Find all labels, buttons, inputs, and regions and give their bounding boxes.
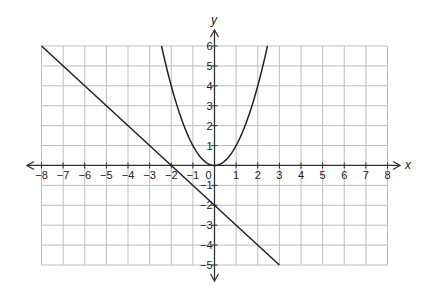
line-y-equals-neg-x-minus-2 <box>42 46 280 265</box>
x-tick-label: −4 <box>122 169 135 181</box>
y-tick-label: 3 <box>206 100 212 112</box>
y-tick-label: 1 <box>206 140 212 152</box>
y-tick-label: −1 <box>200 179 213 191</box>
x-tick-label: −7 <box>57 169 70 181</box>
y-tick-label: 2 <box>206 120 212 132</box>
y-tick-label: 4 <box>206 80 212 92</box>
tick-labels: −8−7−6−5−4−3−2−1012345678−5−4−3−2−112345… <box>35 40 390 271</box>
y-tick-label: −5 <box>200 259 213 271</box>
x-tick-label: 7 <box>363 169 369 181</box>
x-axis-label: x <box>404 158 412 172</box>
x-tick-label: −3 <box>143 169 156 181</box>
y-tick-label: 6 <box>206 40 212 52</box>
x-tick-label: 1 <box>233 169 239 181</box>
x-tick-label: 4 <box>298 169 304 181</box>
x-tick-label: 3 <box>276 169 282 181</box>
coordinate-plane: −8−7−6−5−4−3−2−1012345678−5−4−3−2−112345… <box>0 0 434 300</box>
y-tick-label: 5 <box>206 60 212 72</box>
y-axis-label: y <box>210 13 218 27</box>
x-tick-label: −8 <box>35 169 48 181</box>
y-tick-label: −3 <box>200 219 213 231</box>
x-tick-label: 6 <box>341 169 347 181</box>
x-tick-label: 8 <box>384 169 390 181</box>
x-tick-label: −1 <box>187 169 200 181</box>
x-tick-label: −6 <box>78 169 91 181</box>
x-tick-label: 5 <box>320 169 326 181</box>
x-tick-label: −5 <box>100 169 113 181</box>
y-tick-label: −4 <box>200 239 213 251</box>
plotted-curves <box>42 46 280 265</box>
x-tick-label: −2 <box>165 169 178 181</box>
x-tick-label: 2 <box>255 169 261 181</box>
